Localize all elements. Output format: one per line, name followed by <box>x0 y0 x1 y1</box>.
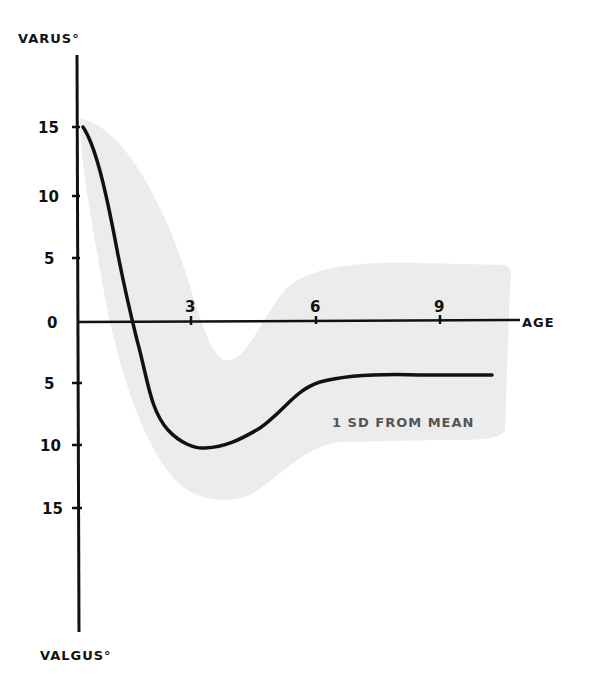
y-axis <box>77 55 79 632</box>
y-tick-neg10: 10 <box>40 437 61 455</box>
x-tick-6: 6 <box>310 298 320 316</box>
x-tick-9: 9 <box>434 298 444 316</box>
y-tick-5: 5 <box>44 250 54 268</box>
x-tick-3: 3 <box>185 298 195 316</box>
sd-annotation: 1 SD FROM MEAN <box>332 415 474 430</box>
y-tick-15: 15 <box>38 119 59 137</box>
y-axis-title-valgus: VALGUS° <box>40 648 112 663</box>
y-axis-title-varus: VARUS° <box>18 31 80 46</box>
y-tick-0: 0 <box>47 314 57 332</box>
y-tick-neg5: 5 <box>44 375 54 393</box>
x-axis-title-age: AGE <box>522 315 555 330</box>
y-tick-neg15: 15 <box>42 500 63 518</box>
chart: 15 10 5 0 5 10 15 3 6 9 VARUS° VALGUS° A… <box>0 0 599 691</box>
y-tick-10: 10 <box>38 188 59 206</box>
sd-band <box>80 118 511 500</box>
